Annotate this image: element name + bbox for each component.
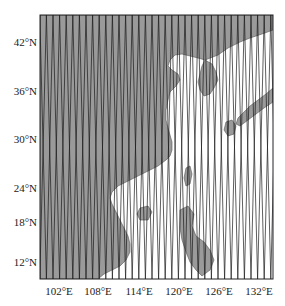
lon-label-132e: 132°E bbox=[245, 285, 273, 297]
ground-track-map: 42°N 36°N 30°N 24°N 18°N 12°N 102°E 108°… bbox=[0, 0, 285, 306]
lat-label-18n: 18°N bbox=[14, 216, 37, 228]
lon-label-126e: 126°E bbox=[205, 285, 233, 297]
lat-label-24n: 24°N bbox=[14, 182, 37, 194]
lat-label-36n: 36°N bbox=[14, 85, 37, 97]
lon-label-108e: 108°E bbox=[84, 285, 112, 297]
lat-label-12n: 12°N bbox=[14, 256, 37, 268]
lon-label-114e: 114°E bbox=[125, 285, 152, 297]
map-plot bbox=[0, 0, 285, 306]
lat-label-42n: 42°N bbox=[14, 36, 37, 48]
lat-label-30n: 30°N bbox=[14, 133, 37, 145]
lon-label-102e: 102°E bbox=[45, 285, 73, 297]
lon-label-120e: 120°E bbox=[165, 285, 193, 297]
